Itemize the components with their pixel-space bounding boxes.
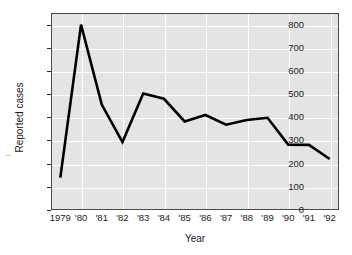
y-axis-title: Reported cases <box>14 70 25 166</box>
line-chart: 0100200300400500600700800 1979'80'81'82'… <box>0 0 352 255</box>
stray-tick-mark <box>6 155 11 156</box>
data-series-line <box>0 0 352 255</box>
x-axis-title: Year <box>51 233 339 244</box>
series-polyline <box>60 25 329 178</box>
